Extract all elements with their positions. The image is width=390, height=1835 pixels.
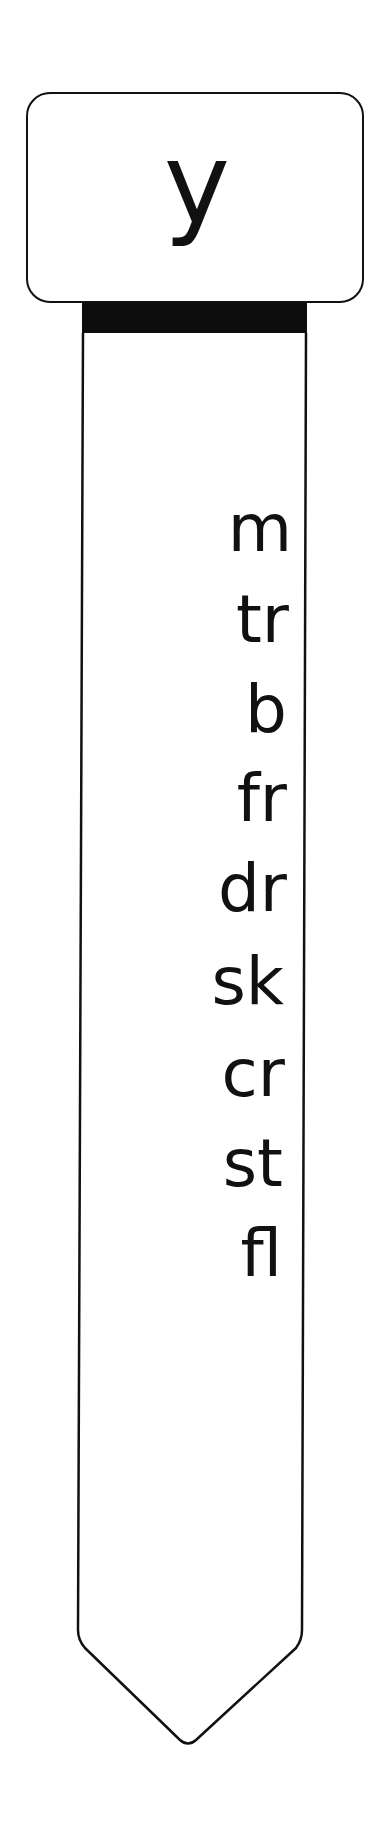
header-card: y bbox=[26, 92, 364, 303]
word-item: st bbox=[223, 1131, 283, 1197]
word-item: fr bbox=[237, 766, 287, 832]
word-item: tr bbox=[236, 587, 289, 653]
word-item: b bbox=[245, 677, 287, 743]
word-item: sk bbox=[211, 949, 284, 1015]
header-band bbox=[82, 302, 307, 333]
word-item: cr bbox=[222, 1041, 285, 1107]
word-item: m bbox=[228, 496, 292, 562]
word-item: fl bbox=[240, 1221, 282, 1287]
header-letter: y bbox=[28, 128, 366, 240]
word-item: dr bbox=[218, 856, 287, 922]
